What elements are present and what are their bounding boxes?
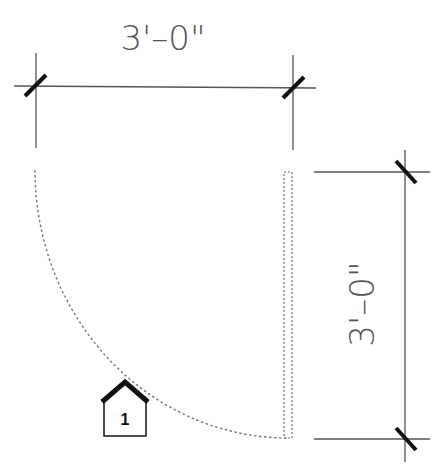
- door-plan-drawing: 3'–0" 3'–0" 1: [0, 0, 444, 466]
- door-tag-outline: [104, 383, 146, 436]
- door-tag-number: 1: [121, 411, 130, 428]
- top-dimension: 3'–0": [14, 18, 316, 150]
- door-swing-arc: [35, 170, 288, 438]
- right-dimension: 3'–0": [314, 150, 430, 462]
- door-leaf: [284, 172, 292, 438]
- door-tag: 1: [102, 382, 148, 436]
- height-dimension-label: 3'–0": [342, 261, 382, 346]
- top-dimension-line: [14, 86, 316, 88]
- width-dimension-label: 3'–0": [120, 18, 205, 58]
